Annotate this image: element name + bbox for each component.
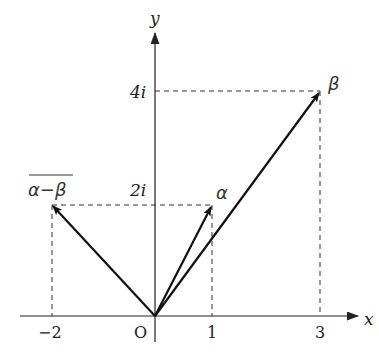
x-tick-3: 3 (315, 323, 325, 342)
vector-conjugate-alpha-minus-beta (53, 206, 155, 316)
guide-lines (52, 91, 320, 316)
label-conjugate-alpha-minus-beta: α−β (28, 179, 66, 200)
origin-label: O (134, 323, 147, 342)
label-alpha: α (216, 182, 228, 203)
x-axis-label: x (364, 309, 374, 329)
x-tick-1: 1 (207, 323, 217, 342)
y-tick-4i: 4i (129, 82, 146, 102)
label-beta: β (327, 73, 340, 94)
y-axis-label: y (149, 8, 160, 28)
complex-plane-diagram: y x O −2 1 3 2i 4i α β α−β (0, 0, 379, 361)
vector-alpha (155, 207, 211, 316)
y-tick-2i: 2i (129, 180, 146, 200)
x-tick-neg2: −2 (38, 323, 62, 342)
